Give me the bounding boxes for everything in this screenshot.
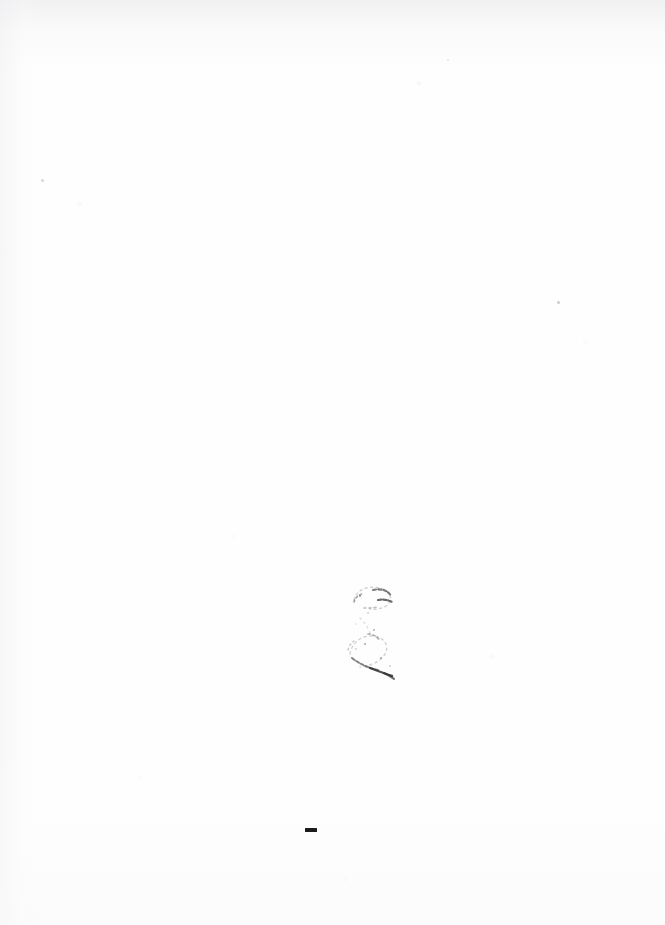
scanned-page: Blank scanned page [0,0,665,925]
paper-texture-overlay [0,0,665,925]
handwritten-3-glyph [340,578,402,690]
speck-left [41,179,44,182]
ink-dash [305,828,317,832]
speck-mid [447,59,449,61]
speck-right [557,301,560,304]
